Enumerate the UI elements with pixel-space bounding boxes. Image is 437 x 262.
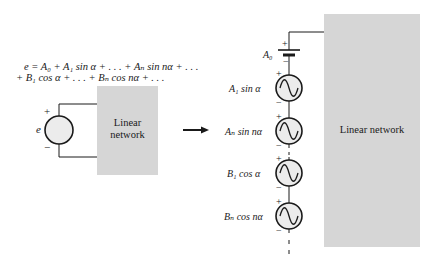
ac-source-1-plus: + — [276, 68, 282, 79]
left-network-label-line-2: network — [97, 129, 158, 141]
left-network-label-line-1: Linear — [97, 117, 158, 129]
left-plus-sign: + — [44, 106, 50, 117]
ac-source-1-label: A₁ sin α — [229, 83, 261, 94]
left-bottom-wire — [59, 144, 97, 157]
ac-source-2-plus: + — [276, 111, 282, 122]
transform-arrow-icon — [183, 127, 209, 134]
fourier-equation-line-1: e = A₀ + A₁ sin α + . . . + Aₙ sin nα + … — [24, 61, 198, 72]
fourier-series-equivalent-diagram: e = A₀ + A₁ sin α + . . . + Aₙ sin nα + … — [0, 0, 437, 262]
ac-source-2-minus: − — [276, 140, 282, 151]
left-voltage-source-icon — [45, 116, 73, 144]
ac-source-4-plus: + — [276, 196, 282, 207]
ac-source-4-minus: − — [276, 225, 282, 236]
right-top-wire — [289, 32, 324, 50]
dc-minus-sign: − — [283, 56, 289, 67]
ac-source-2-label: Aₙ sin nα — [225, 126, 262, 137]
ac-source-1-minus: − — [276, 97, 282, 108]
left-network-label: Linear network — [97, 117, 158, 141]
left-top-wire — [59, 104, 97, 116]
left-source-label: e — [36, 124, 41, 135]
ac-source-4-label: Bₙ cos nα — [224, 211, 263, 222]
right-network-label: Linear network — [324, 124, 420, 136]
dc-source-label: A₀ — [263, 49, 273, 60]
ac-source-3-label: B₁ cos α — [227, 168, 260, 179]
ac-source-3-plus: + — [276, 153, 282, 164]
fourier-equation-line-2: + B₁ cos α + . . . + Bₙ cos nα + . . . — [16, 72, 164, 83]
left-minus-sign: − — [44, 142, 50, 153]
dc-plus-sign: + — [282, 38, 288, 49]
ac-source-3-minus: − — [276, 182, 282, 193]
